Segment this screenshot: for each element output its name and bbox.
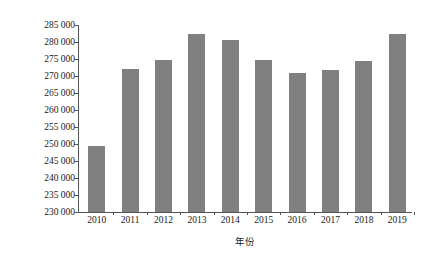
y-tick-label: 275 000: [44, 54, 75, 64]
y-tick-label: 285 000: [44, 20, 75, 30]
x-tick-label: 2017: [321, 215, 340, 225]
y-tick-mark: [74, 59, 78, 60]
x-tick-label: 2010: [87, 215, 106, 225]
bar-chart: 煤炭消费总量/万 t 标准煤 230 000235 000240 000245 …: [0, 0, 424, 259]
y-tick-label: 245 000: [44, 156, 75, 166]
y-tick-mark: [74, 76, 78, 77]
y-tick-mark: [74, 25, 78, 26]
x-tick-label: 2016: [288, 215, 307, 225]
y-tick-mark: [74, 144, 78, 145]
y-tick-mark: [74, 161, 78, 162]
y-tick-mark: [74, 110, 78, 111]
bar: [88, 146, 105, 212]
bar: [155, 60, 172, 212]
y-tick-mark: [74, 195, 78, 196]
y-tick-label: 250 000: [44, 139, 75, 149]
y-tick-label: 270 000: [44, 71, 75, 81]
y-tick-mark: [74, 127, 78, 128]
plot-area: [78, 25, 412, 212]
x-axis-title: 年份: [78, 234, 412, 248]
x-axis-tick-labels: 2010201120122013201420152016201720182019: [78, 215, 412, 229]
x-tick-label: 2011: [121, 215, 140, 225]
bar: [322, 70, 339, 212]
y-tick-label: 255 000: [44, 122, 75, 132]
bar: [122, 69, 139, 212]
bar: [389, 34, 406, 212]
x-tick-label: 2018: [354, 215, 373, 225]
y-tick-label: 260 000: [44, 105, 75, 115]
x-tick-label: 2014: [221, 215, 240, 225]
y-tick-label: 280 000: [44, 37, 75, 47]
bar: [255, 60, 272, 212]
x-axis-line: [78, 212, 412, 213]
y-tick-label: 265 000: [44, 88, 75, 98]
x-tick-label: 2019: [388, 215, 407, 225]
x-tick-label: 2012: [154, 215, 173, 225]
y-tick-mark: [74, 93, 78, 94]
bar: [355, 61, 372, 212]
x-tick-label: 2015: [254, 215, 273, 225]
y-tick-label: 235 000: [44, 190, 75, 200]
y-tick-mark: [74, 178, 78, 179]
bar: [222, 40, 239, 212]
x-tick-label: 2013: [187, 215, 206, 225]
y-tick-label: 230 000: [44, 207, 75, 217]
x-tick-mark: [414, 212, 415, 215]
y-tick-mark: [74, 212, 78, 213]
y-tick-label: 240 000: [44, 173, 75, 183]
bars-layer: [78, 25, 412, 212]
y-tick-mark: [74, 42, 78, 43]
y-axis-tick-labels: 230 000235 000240 000245 000250 000255 0…: [26, 18, 78, 218]
bar: [188, 34, 205, 212]
bar: [289, 73, 306, 212]
